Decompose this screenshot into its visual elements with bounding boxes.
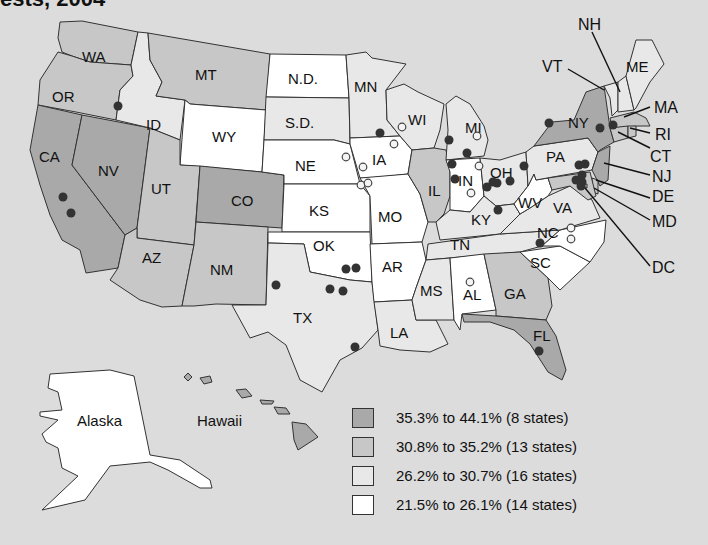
svg-text:UT: UT bbox=[151, 180, 171, 197]
filled-city-marker bbox=[536, 239, 545, 248]
svg-text:NJ: NJ bbox=[652, 168, 672, 185]
filled-city-marker bbox=[326, 285, 335, 294]
svg-text:MA: MA bbox=[654, 99, 678, 116]
filled-city-marker bbox=[451, 175, 460, 184]
legend-swatch bbox=[352, 437, 374, 457]
legend-item: 35.3% to 44.1% (8 states) bbox=[352, 403, 577, 432]
filled-city-marker bbox=[578, 171, 587, 180]
svg-text:IL: IL bbox=[428, 182, 441, 199]
state-HI-2[interactable] bbox=[200, 376, 212, 384]
svg-text:CO: CO bbox=[231, 192, 254, 209]
svg-text:ID: ID bbox=[146, 116, 161, 133]
open-city-marker bbox=[342, 153, 350, 161]
open-city-marker bbox=[567, 235, 575, 243]
filled-city-marker bbox=[596, 124, 605, 133]
open-city-marker bbox=[398, 123, 406, 131]
svg-text:VT: VT bbox=[542, 58, 563, 75]
alaska-label: Alaska bbox=[77, 412, 123, 429]
svg-text:MD: MD bbox=[652, 213, 677, 230]
filled-city-marker bbox=[114, 102, 123, 111]
svg-text:OK: OK bbox=[313, 237, 335, 254]
open-city-marker bbox=[467, 189, 475, 197]
legend-swatch bbox=[352, 495, 374, 515]
open-city-marker bbox=[359, 163, 367, 171]
filled-city-marker bbox=[339, 287, 348, 296]
svg-text:WV: WV bbox=[518, 194, 542, 211]
svg-text:MO: MO bbox=[378, 208, 402, 225]
open-city-marker bbox=[466, 278, 474, 286]
legend-item: 26.2% to 30.7% (16 states) bbox=[352, 461, 577, 490]
svg-text:WY: WY bbox=[212, 128, 236, 145]
svg-text:TX: TX bbox=[293, 309, 312, 326]
state-HI-5[interactable] bbox=[274, 407, 290, 414]
svg-text:NV: NV bbox=[98, 162, 119, 179]
svg-text:S.D.: S.D. bbox=[285, 114, 314, 131]
state-FL[interactable] bbox=[462, 314, 566, 380]
filled-city-marker bbox=[609, 121, 618, 130]
svg-text:CA: CA bbox=[39, 148, 60, 165]
state-AK[interactable] bbox=[40, 370, 212, 510]
filled-city-marker bbox=[376, 129, 385, 138]
svg-text:MT: MT bbox=[195, 66, 217, 83]
hawaii-label: Hawaii bbox=[197, 412, 242, 429]
svg-text:RI: RI bbox=[655, 126, 671, 143]
filled-city-marker bbox=[493, 179, 502, 188]
svg-text:WA: WA bbox=[82, 48, 106, 65]
filled-city-marker bbox=[351, 343, 360, 352]
svg-text:WI: WI bbox=[408, 111, 426, 128]
filled-city-marker bbox=[352, 264, 361, 273]
filled-city-marker bbox=[535, 347, 544, 356]
svg-text:KY: KY bbox=[471, 211, 491, 228]
legend-label: 26.2% to 30.7% (16 states) bbox=[396, 467, 577, 484]
filled-city-marker bbox=[520, 162, 529, 171]
filled-city-marker bbox=[445, 136, 454, 145]
svg-text:DE: DE bbox=[652, 188, 674, 205]
svg-text:NY: NY bbox=[568, 114, 589, 131]
svg-text:AL: AL bbox=[463, 286, 481, 303]
svg-text:NH: NH bbox=[578, 16, 601, 33]
svg-text:SC: SC bbox=[530, 254, 551, 271]
svg-text:DC: DC bbox=[652, 259, 675, 276]
svg-text:MN: MN bbox=[354, 78, 377, 95]
svg-text:TN: TN bbox=[450, 236, 470, 253]
state-HI-3[interactable] bbox=[236, 389, 252, 398]
svg-text:AZ: AZ bbox=[142, 249, 161, 266]
svg-text:KS: KS bbox=[309, 202, 329, 219]
svg-text:IN: IN bbox=[458, 172, 473, 189]
state-HI-6[interactable] bbox=[292, 422, 318, 450]
svg-text:NE: NE bbox=[295, 157, 316, 174]
legend-item: 21.5% to 26.1% (14 states) bbox=[352, 490, 577, 519]
legend-label: 30.8% to 35.2% (13 states) bbox=[396, 438, 577, 455]
filled-city-marker bbox=[67, 209, 76, 218]
legend-swatch bbox=[352, 466, 374, 486]
filled-city-marker bbox=[272, 281, 281, 290]
svg-text:FL: FL bbox=[533, 327, 551, 344]
svg-text:IA: IA bbox=[372, 151, 386, 168]
open-city-marker bbox=[473, 132, 481, 140]
open-city-marker bbox=[364, 179, 372, 187]
svg-text:N.D.: N.D. bbox=[288, 70, 318, 87]
svg-text:AR: AR bbox=[382, 258, 403, 275]
svg-text:GA: GA bbox=[504, 285, 526, 302]
filled-city-marker bbox=[59, 193, 68, 202]
legend-item: 30.8% to 35.2% (13 states) bbox=[352, 432, 577, 461]
svg-text:ME: ME bbox=[626, 58, 649, 75]
legend-label: 21.5% to 26.1% (14 states) bbox=[396, 496, 577, 513]
filled-city-marker bbox=[545, 119, 554, 128]
svg-text:PA: PA bbox=[546, 148, 565, 165]
open-city-marker bbox=[475, 162, 483, 170]
filled-city-marker bbox=[342, 265, 351, 274]
svg-text:NC: NC bbox=[537, 224, 559, 241]
state-HI-1[interactable] bbox=[184, 373, 192, 381]
svg-text:OR: OR bbox=[52, 88, 75, 105]
open-city-marker bbox=[567, 224, 575, 232]
svg-text:VA: VA bbox=[553, 199, 572, 216]
svg-text:CT: CT bbox=[650, 148, 672, 165]
open-city-marker bbox=[390, 140, 398, 148]
filled-city-marker bbox=[494, 206, 503, 215]
state-HI-4[interactable] bbox=[260, 400, 274, 404]
legend: 35.3% to 44.1% (8 states) 30.8% to 35.2%… bbox=[352, 403, 577, 519]
filled-city-marker bbox=[448, 160, 457, 169]
legend-label: 35.3% to 44.1% (8 states) bbox=[396, 409, 569, 426]
filled-city-marker bbox=[581, 160, 590, 169]
